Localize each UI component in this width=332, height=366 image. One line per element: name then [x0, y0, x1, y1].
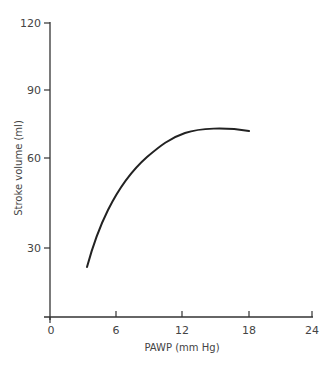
y-axis-label: Stroke volume (ml)	[13, 120, 24, 216]
y-ticks: 120 90 60 30	[20, 17, 50, 255]
y-tick-label-30: 30	[27, 242, 41, 255]
x-axis-label: PAWP (mm Hg)	[144, 342, 219, 353]
y-tick-label-60: 60	[27, 152, 41, 165]
x-tick-label-6: 6	[113, 324, 120, 337]
x-tick-label-0: 0	[48, 324, 55, 337]
x-ticks: 0 6 12 18 24	[48, 311, 320, 337]
chart: 120 90 60 30 0 6 12 18 24 PAWP (mm Hg) S…	[0, 0, 332, 366]
x-tick-label-18: 18	[242, 324, 256, 337]
y-tick-label-90: 90	[27, 84, 41, 97]
stroke-volume-curve	[87, 129, 249, 267]
y-tick-label-120: 120	[20, 17, 41, 30]
x-tick-label-12: 12	[175, 324, 189, 337]
x-tick-label-24: 24	[305, 324, 319, 337]
